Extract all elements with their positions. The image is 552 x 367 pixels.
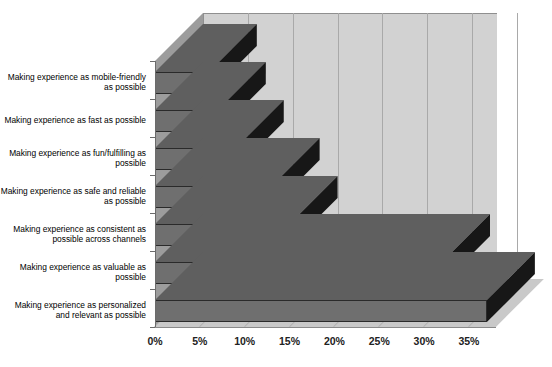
bar-6	[155, 0, 156, 1]
category-label-1: Making experience as fast as possible	[0, 115, 146, 125]
value-tick-label-7: 35%	[452, 335, 486, 347]
category-label-0: Making experience as mobile-friendly as …	[0, 72, 146, 92]
value-axis-line	[155, 327, 496, 328]
value-tick-label-0: 0%	[138, 335, 172, 347]
value-tick-label-6: 30%	[407, 335, 441, 347]
bar-front-face	[155, 300, 487, 322]
gridline-35	[517, 13, 518, 279]
chart-canvas: Making experience as mobile-friendly as …	[0, 0, 552, 367]
category-label-6: Making experience as personalized and re…	[0, 300, 146, 320]
value-tick-label-1: 5%	[183, 335, 217, 347]
bar-top-face	[155, 252, 535, 300]
value-tick-label-3: 15%	[273, 335, 307, 347]
category-axis-line	[155, 61, 156, 327]
category-label-2: Making experience as fun/fulfilling as p…	[0, 148, 146, 168]
category-label-3: Making experience as safe and reliable a…	[0, 186, 146, 206]
category-label-4: Making experience as consistent as possi…	[0, 224, 146, 244]
value-tick-label-2: 10%	[228, 335, 262, 347]
value-tick-label-5: 25%	[362, 335, 396, 347]
value-tick-label-4: 20%	[317, 335, 351, 347]
category-label-5: Making experience as valuable as possibl…	[0, 262, 146, 282]
